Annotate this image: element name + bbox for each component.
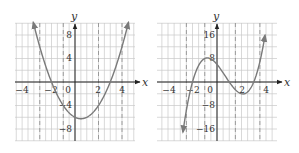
y-tick-label: 8 (66, 30, 72, 40)
x-tick-label: 0 (65, 85, 71, 95)
figure: x y −4 −2 0 2 4 8 4 −4 −8 x y −4 −2 0 2 … (0, 0, 299, 153)
x-tick-label: 4 (119, 85, 125, 95)
graph-cubic: x y −4 −2 0 2 4 16 8 −8 −16 (157, 10, 291, 141)
x-tick-label: −4 (162, 85, 176, 95)
x-tick-label: 4 (263, 85, 269, 95)
y-axis-label: y (212, 10, 220, 23)
x-axis-label: x (142, 76, 149, 89)
x-axis-label: x (284, 76, 291, 89)
x-tick-label: 2 (95, 85, 101, 95)
y-axis-label: y (70, 10, 78, 23)
y-tick-label: −8 (59, 124, 73, 134)
y-tick-label: 16 (204, 30, 216, 40)
x-tick-label: −4 (15, 85, 29, 95)
x-tick-label: −2 (186, 85, 199, 95)
y-tick-label: −8 (202, 100, 216, 110)
y-tick-label: −16 (196, 124, 215, 134)
y-tick-label: 4 (66, 53, 72, 63)
graph-parabola: x y −4 −2 0 2 4 8 4 −4 −8 (15, 10, 149, 141)
x-tick-label: 0 (207, 85, 213, 95)
chart-canvas: x y −4 −2 0 2 4 8 4 −4 −8 x y −4 −2 0 2 … (0, 0, 299, 153)
